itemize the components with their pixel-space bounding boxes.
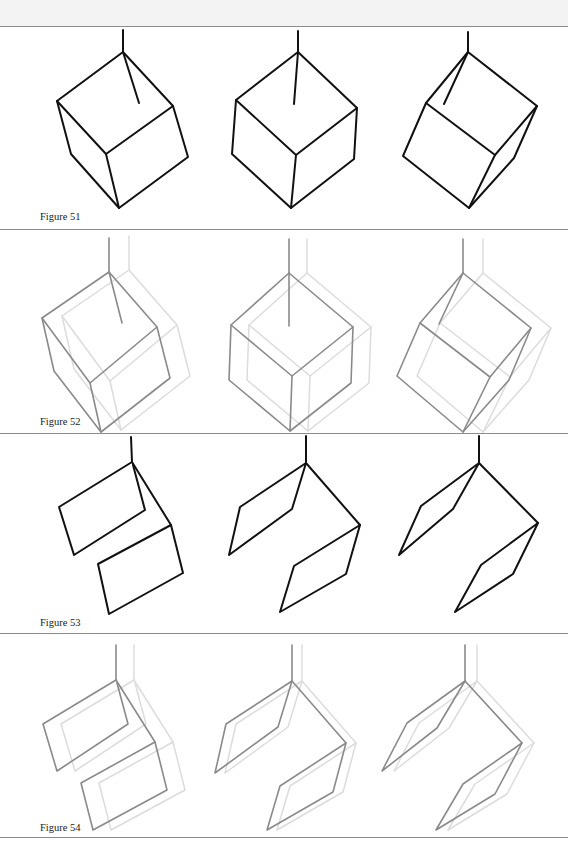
figure-51-caption: Figure 51: [40, 211, 81, 223]
cube-2: [229, 239, 353, 431]
figure-51: [57, 30, 537, 208]
cube-3: [397, 239, 531, 432]
folded-shape-3: [399, 436, 538, 612]
folded-shape-1: [59, 437, 183, 614]
cube-2: [232, 31, 357, 208]
figure-54: [43, 645, 522, 830]
figure-53-caption: Figure 53: [40, 617, 81, 629]
figures-canvas: [0, 0, 568, 856]
figure-54-ghosts: [61, 645, 534, 830]
folded-shape-3: [382, 645, 522, 830]
figure-52-caption: Figure 52: [40, 416, 81, 428]
folded-shape-2: [229, 436, 360, 612]
cube-1: [42, 238, 170, 432]
figure-54-caption: Figure 54: [40, 822, 81, 834]
folded-shape-1: [43, 645, 167, 830]
cube-3: [403, 32, 537, 208]
cube-1: [57, 30, 188, 208]
figure-53: [59, 436, 538, 614]
